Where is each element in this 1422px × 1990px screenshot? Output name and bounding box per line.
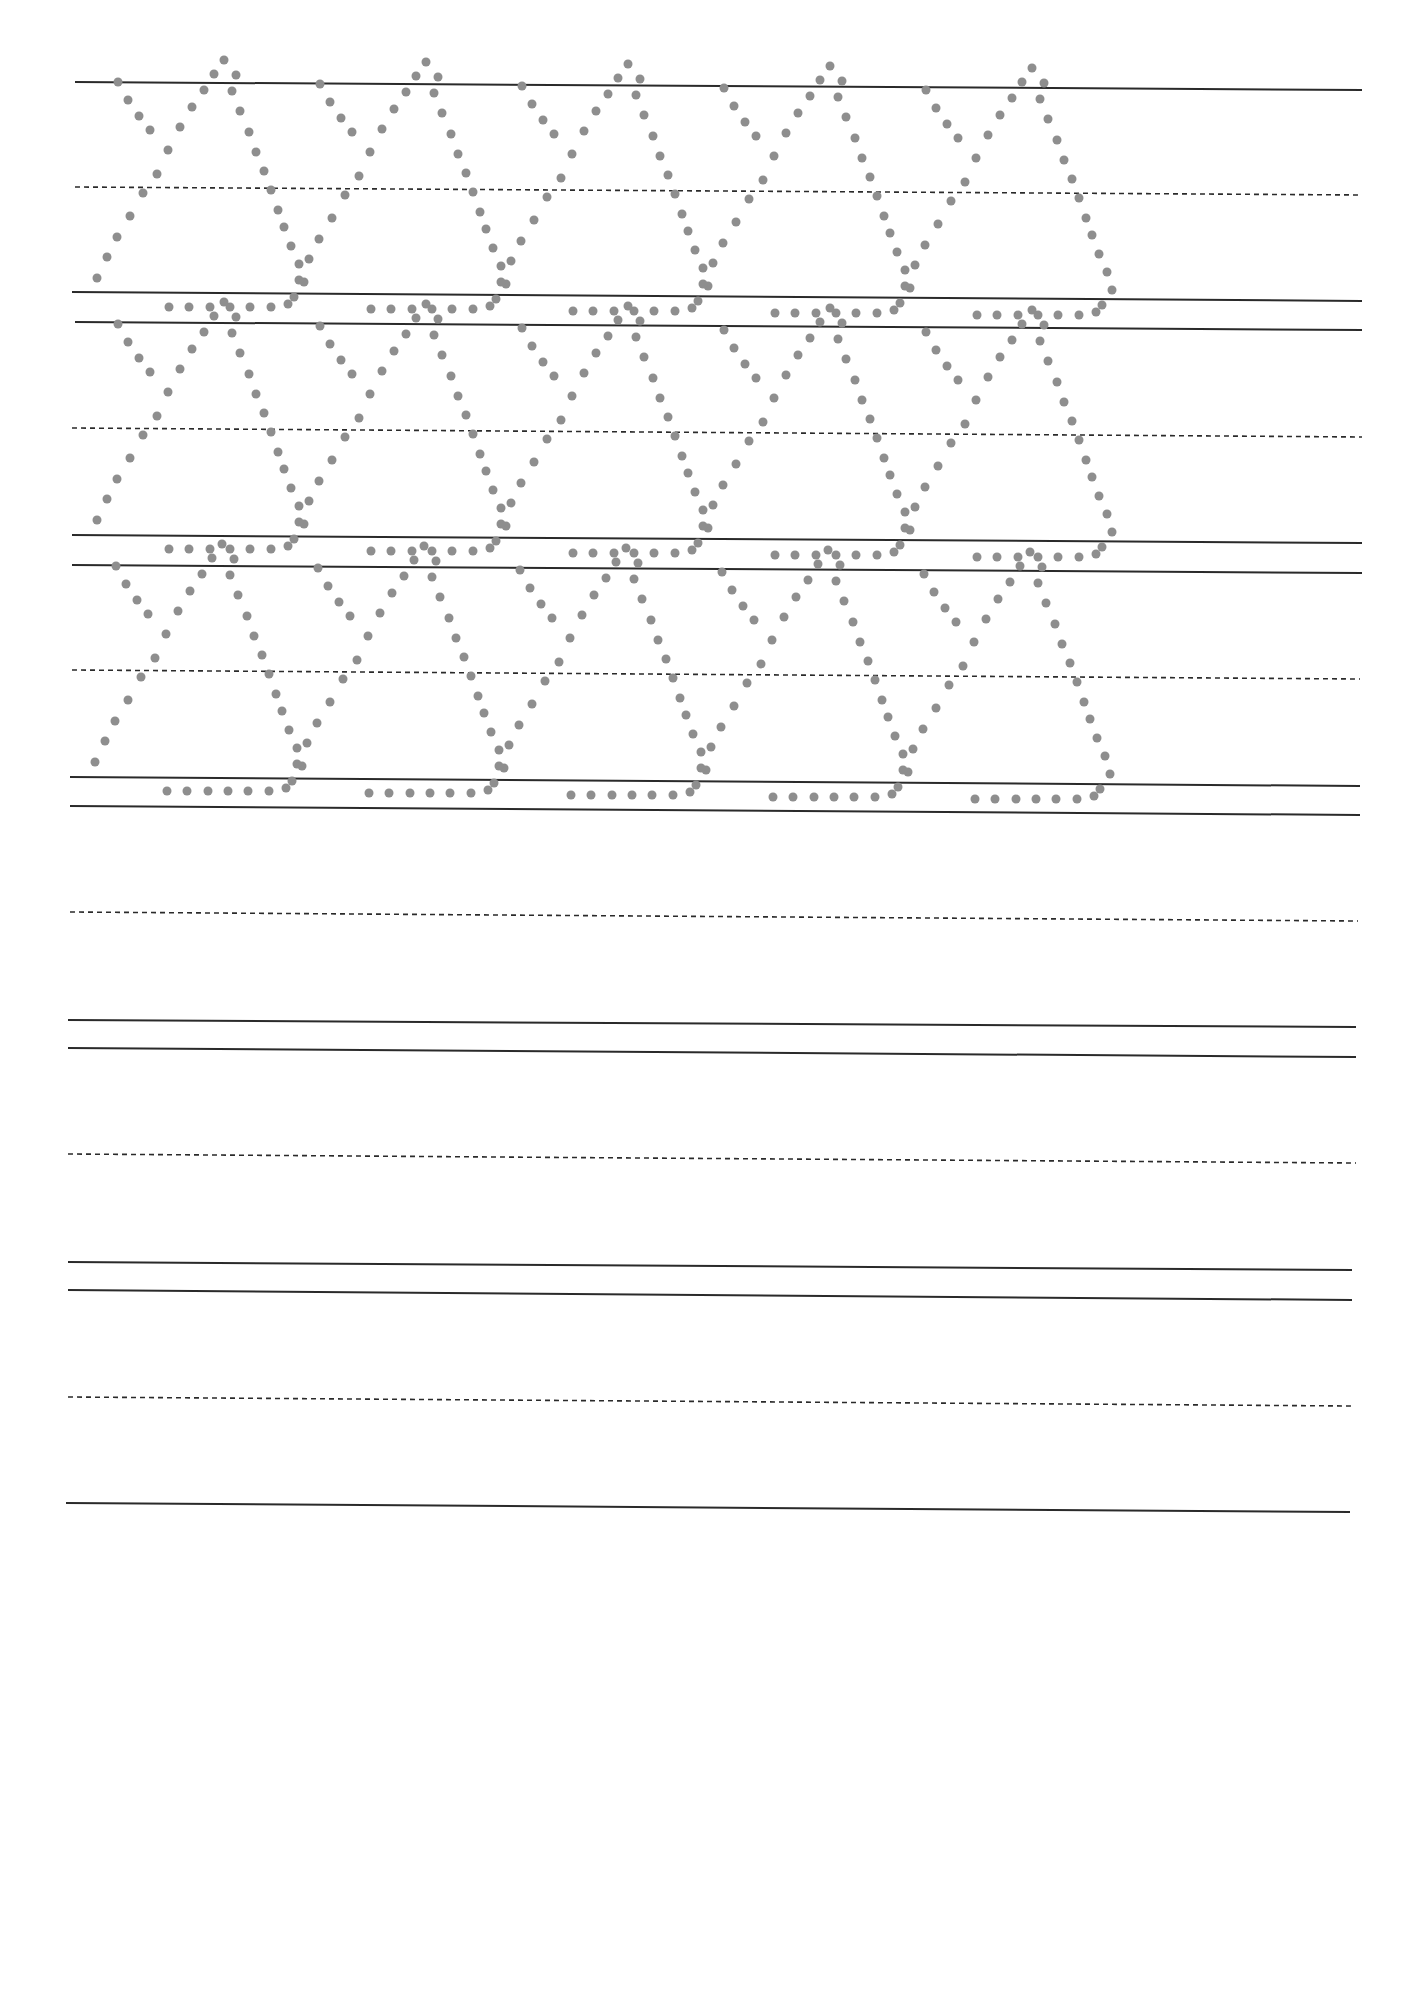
worksheet-canvas xyxy=(0,0,1422,1990)
writing-row-midline-dashed xyxy=(70,912,1358,921)
dotted-letter-trace-icon xyxy=(901,64,1117,320)
dotted-letter-trace-icon xyxy=(497,302,713,558)
writing-row-baseline xyxy=(72,535,1362,543)
writing-row-baseline xyxy=(72,292,1362,301)
writing-row-baseline xyxy=(70,777,1360,786)
writing-row-baseline xyxy=(68,1020,1356,1027)
dotted-letter-trace-icon xyxy=(93,298,309,554)
dotted-letter-trace-icon xyxy=(295,58,511,314)
dotted-letter-trace-icon xyxy=(699,304,915,560)
dotted-letter-trace-icon xyxy=(901,306,1117,562)
writing-row-baseline xyxy=(66,1503,1350,1512)
writing-row-top-line xyxy=(68,1290,1352,1300)
writing-row-midline-dashed xyxy=(72,428,1362,437)
dotted-letter-trace-icon xyxy=(93,56,309,312)
writing-row-top-line xyxy=(75,82,1362,90)
writing-row-midline-dashed xyxy=(68,1397,1352,1406)
dotted-letter-trace-icon xyxy=(293,542,509,798)
worksheet-page xyxy=(0,0,1422,1990)
dotted-letter-trace-icon xyxy=(699,62,915,318)
dotted-letter-trace-icon xyxy=(497,60,713,316)
writing-row-top-line xyxy=(70,806,1360,815)
dotted-letter-trace-icon xyxy=(91,540,307,796)
dotted-letter-trace-icon xyxy=(495,544,711,800)
writing-row-top-line xyxy=(75,322,1362,330)
writing-row-top-line xyxy=(68,1048,1356,1057)
writing-row-top-line xyxy=(72,565,1362,573)
dotted-letter-trace-icon xyxy=(697,546,913,802)
dotted-letter-trace-icon xyxy=(295,300,511,556)
writing-row-baseline xyxy=(68,1262,1352,1270)
writing-row-midline-dashed xyxy=(68,1154,1356,1163)
